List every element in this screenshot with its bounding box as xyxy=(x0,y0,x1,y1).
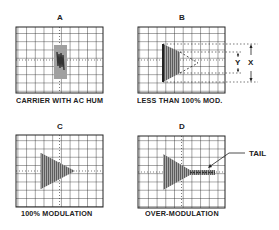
tail-label: TAIL xyxy=(249,149,266,158)
panel-d-letter: D xyxy=(172,122,192,131)
y-dimension-label: Y xyxy=(235,58,240,67)
panel-a-caption: CARRIER WITH AC HUM xyxy=(16,96,103,105)
panel-c-letter: C xyxy=(50,122,70,131)
panel-b-caption: LESS THAN 100% MOD. xyxy=(137,96,222,105)
panel-c-caption: 100% MODULATION xyxy=(21,209,92,218)
modulation-patterns-diagram xyxy=(0,0,279,230)
x-dimension-label: X xyxy=(248,58,253,67)
panel-a-scope xyxy=(16,27,103,93)
panel-c-scope xyxy=(16,135,103,207)
panel-b-letter: B xyxy=(172,13,192,22)
panel-d-scope xyxy=(138,136,245,208)
panel-d-caption: OVER-MODULATION xyxy=(145,209,219,218)
panel-a-letter: A xyxy=(50,13,70,22)
